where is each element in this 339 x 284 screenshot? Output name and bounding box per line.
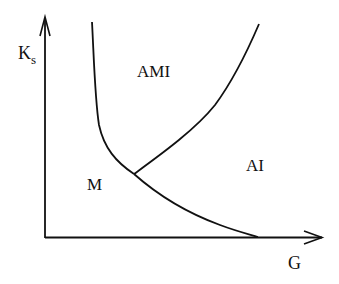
y-axis [40,17,50,238]
boundary-ami-ai [134,24,259,174]
y-axis-label: Ks [18,44,36,62]
region-label-m: M [87,176,102,193]
boundary-m-ai [134,174,258,237]
phase-diagram: Ks G AMI M AI [0,0,339,284]
region-label-ami: AMI [137,63,170,80]
x-axis [45,231,322,244]
diagram-svg [0,0,339,284]
region-label-ai: AI [246,157,264,174]
boundary-m-ami [92,22,134,174]
y-axis-label-subscript: s [31,52,36,67]
x-axis-label: G [288,254,301,272]
y-axis-label-main: K [18,43,31,63]
